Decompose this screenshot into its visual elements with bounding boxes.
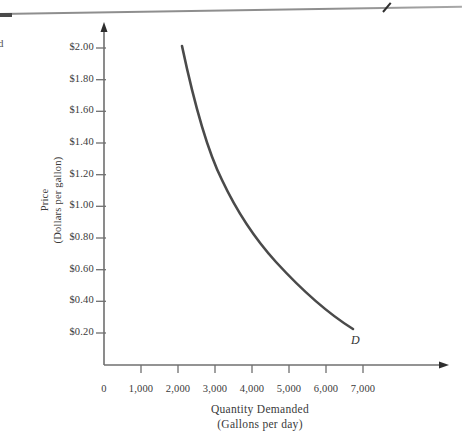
y-axis-title-line1: Price [39,189,50,212]
y-tick-label: $2.00 [46,41,94,52]
x-tick-label: 7,000 [336,383,390,394]
x-axis-title: Quantity Demanded (Gallons per day) [154,402,366,432]
x-axis-arrowhead-icon [439,362,449,369]
x-axis-title-line1: Quantity Demanded [154,402,366,417]
demand-curve-chart: $2.00 $1.80 $1.60 $1.40 $1.20 $1.00 $0.8… [0,0,462,441]
y-tick-label: $0.20 [46,326,94,337]
demand-curve-label: D [351,333,360,348]
demand-curve-path [182,46,353,329]
y-axis-title-line2: (Dollars per gallon) [51,100,64,300]
chart-canvas [0,0,462,441]
x-axis-title-line2: (Gallons per day) [154,417,366,432]
x-axis-ticks [141,365,363,373]
figure-page: d [0,0,462,441]
y-axis-arrowhead-icon [101,22,108,32]
y-axis-title: Price (Dollars per gallon) [38,100,64,300]
y-tick-label: $1.80 [46,73,94,84]
